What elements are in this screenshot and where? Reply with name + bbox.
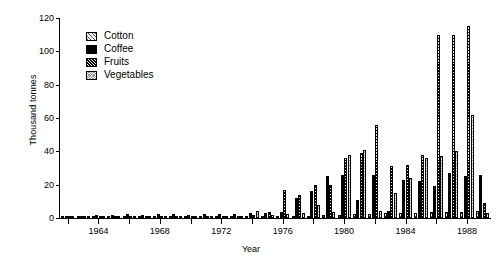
x-tick-label: 1968 <box>150 227 170 236</box>
legend-item: Coffee <box>86 43 154 55</box>
bar-vegetables <box>256 211 259 218</box>
x-tick <box>98 219 99 224</box>
bar-group <box>307 18 321 218</box>
legend-swatch-fruits <box>86 58 97 67</box>
bar-group <box>292 18 306 218</box>
bar-vegetables <box>179 216 182 218</box>
x-tick <box>283 219 284 224</box>
bar-vegetables <box>164 216 167 218</box>
legend-label: Fruits <box>104 57 129 67</box>
bar-vegetables <box>471 115 474 218</box>
bar-group <box>399 18 413 218</box>
x-tick <box>344 219 345 224</box>
bar-vegetables <box>194 216 197 218</box>
x-tick <box>191 219 192 224</box>
bar-group <box>384 18 398 218</box>
y-tick-label: 100 <box>39 47 54 56</box>
x-tick <box>375 219 376 224</box>
chart-figure: Thousand tonnes Year 020406080100120 196… <box>0 0 502 263</box>
x-tick <box>160 219 161 224</box>
bar-group <box>184 18 198 218</box>
x-tick-label: 1964 <box>88 227 108 236</box>
y-tick-label: 40 <box>44 147 54 156</box>
x-tick <box>221 219 222 224</box>
legend-swatch-cotton <box>86 32 97 41</box>
bar-group <box>430 18 444 218</box>
y-tick-label: 60 <box>44 114 54 123</box>
x-tick-label: 1980 <box>334 227 354 236</box>
bar-group <box>414 18 428 218</box>
bar-group <box>322 18 336 218</box>
bar-vegetables <box>379 211 382 218</box>
legend-item: Vegetables <box>86 69 154 81</box>
bar-vegetables <box>117 216 120 218</box>
y-tick-label: 20 <box>44 181 54 190</box>
x-tick <box>406 219 407 224</box>
legend-swatch-vegetables <box>86 71 97 80</box>
legend-label: Vegetables <box>104 70 154 80</box>
bar-vegetables <box>440 156 443 218</box>
bar-group <box>276 18 290 218</box>
legend-label: Coffee <box>104 44 133 54</box>
x-tick <box>252 219 253 224</box>
bar-group <box>460 18 474 218</box>
bar-vegetables <box>271 215 274 218</box>
bar-vegetables <box>425 158 428 218</box>
bar-vegetables <box>133 216 136 218</box>
bar-vegetables <box>225 216 228 218</box>
bar-vegetables <box>302 213 305 218</box>
bar-vegetables <box>286 214 289 218</box>
legend-label: Cotton <box>104 31 133 41</box>
legend-swatch-coffee <box>86 45 97 54</box>
bar-vegetables <box>363 150 366 218</box>
bar-vegetables <box>317 205 320 218</box>
x-tick <box>129 219 130 224</box>
bar-vegetables <box>102 216 105 218</box>
bar-fruits <box>375 125 378 218</box>
chart-legend: CottonCoffeeFruitsVegetables <box>86 30 154 82</box>
x-tick <box>436 219 437 224</box>
bar-vegetables <box>71 216 74 218</box>
bar-group <box>445 18 459 218</box>
bar-vegetables <box>148 216 151 218</box>
bar-group <box>261 18 275 218</box>
x-tick <box>467 219 468 224</box>
x-axis-ticks: 1964196819721976198019841988 <box>0 219 502 249</box>
x-tick-label: 1988 <box>457 227 477 236</box>
bar-group <box>353 18 367 218</box>
bar-group <box>61 18 75 218</box>
bar-vegetables <box>240 216 243 218</box>
bar-vegetables <box>455 151 458 218</box>
bar-vegetables <box>486 213 489 218</box>
bar-vegetables <box>87 216 90 218</box>
bar-vegetables <box>348 155 351 218</box>
bar-group <box>368 18 382 218</box>
bar-group <box>230 18 244 218</box>
x-tick-label: 1984 <box>396 227 416 236</box>
bar-group <box>169 18 183 218</box>
bar-group <box>245 18 259 218</box>
bar-group <box>476 18 490 218</box>
x-tick <box>313 219 314 224</box>
bar-vegetables <box>210 216 213 218</box>
legend-item: Cotton <box>86 30 154 42</box>
bar-vegetables <box>394 193 397 218</box>
bar-vegetables <box>409 178 412 218</box>
bar-group <box>338 18 352 218</box>
bar-vegetables <box>332 212 335 218</box>
bar-group <box>153 18 167 218</box>
bar-group <box>215 18 229 218</box>
bar-group <box>199 18 213 218</box>
x-tick-label: 1976 <box>273 227 293 236</box>
y-tick-label: 80 <box>44 81 54 90</box>
y-tick-label: 120 <box>39 14 54 23</box>
legend-item: Fruits <box>86 56 154 68</box>
x-tick <box>68 219 69 224</box>
x-tick-label: 1972 <box>211 227 231 236</box>
